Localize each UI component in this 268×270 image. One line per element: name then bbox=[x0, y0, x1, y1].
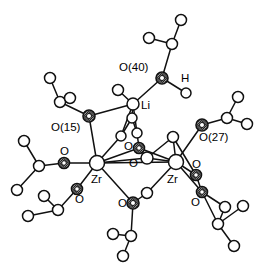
lbl-oc2: O bbox=[129, 157, 138, 169]
molecular-structure-figure: O(40)HLiO(15)O(27)OOZrZrOOOOO bbox=[0, 0, 268, 270]
atom-zr2 bbox=[169, 155, 184, 170]
atom-mba bbox=[108, 229, 119, 240]
atom-m40b bbox=[144, 33, 155, 44]
lbl-zr2: Zr bbox=[167, 173, 178, 185]
lbl-zr1: Zr bbox=[91, 173, 102, 185]
atom-mbb bbox=[118, 251, 129, 262]
atom-hw bbox=[181, 88, 191, 98]
atom-mlba bbox=[39, 191, 50, 202]
atom-m27a bbox=[233, 92, 244, 103]
lbl-h: H bbox=[181, 72, 189, 84]
atom-m15a bbox=[45, 73, 56, 84]
lbl-olb: O bbox=[75, 193, 84, 205]
lbl-li: Li bbox=[141, 99, 150, 111]
atom-ct3 bbox=[132, 128, 142, 138]
atom-cl bbox=[34, 161, 45, 172]
atom-mrba bbox=[220, 202, 231, 213]
lbl-ob: O bbox=[118, 197, 127, 209]
lbl-o15: O(15) bbox=[51, 121, 81, 133]
atom-cr1 bbox=[168, 132, 179, 143]
lbl-orb1: O bbox=[192, 158, 201, 170]
atom-o40 bbox=[149, 72, 174, 84]
lbl-oc1: O bbox=[124, 140, 133, 152]
atom-mrbb bbox=[238, 201, 249, 212]
atom-o27 bbox=[189, 119, 214, 131]
atom-cb bbox=[126, 231, 137, 242]
lbl-ol: O bbox=[60, 145, 69, 157]
atom-m27b bbox=[242, 119, 253, 130]
atom-ct1 bbox=[127, 113, 137, 123]
molecule-canvas: O(40)HLiO(15)O(27)OOZrZrOOOOO bbox=[0, 0, 268, 270]
atom-zr1 bbox=[90, 156, 105, 171]
atom-crb bbox=[213, 219, 224, 230]
atom-tl1 bbox=[113, 85, 124, 96]
bond bbox=[89, 104, 133, 116]
atom-m40a bbox=[176, 15, 187, 26]
atom-li1 bbox=[127, 98, 139, 110]
atom-clb bbox=[53, 205, 64, 216]
atom-mla bbox=[19, 136, 30, 147]
atom-mlb bbox=[12, 185, 23, 196]
atom-obr bbox=[142, 188, 153, 199]
lbl-o27: O(27) bbox=[199, 131, 229, 143]
atom-m15b bbox=[65, 93, 76, 104]
atom-oc2 bbox=[141, 152, 153, 164]
atom-mlbb bbox=[23, 211, 34, 222]
atom-c27 bbox=[222, 113, 233, 124]
atom-c40 bbox=[167, 39, 178, 50]
lbl-o40: O(40) bbox=[119, 61, 149, 73]
lbl-orb2: O bbox=[191, 196, 200, 208]
atom-mrbc bbox=[229, 241, 240, 252]
